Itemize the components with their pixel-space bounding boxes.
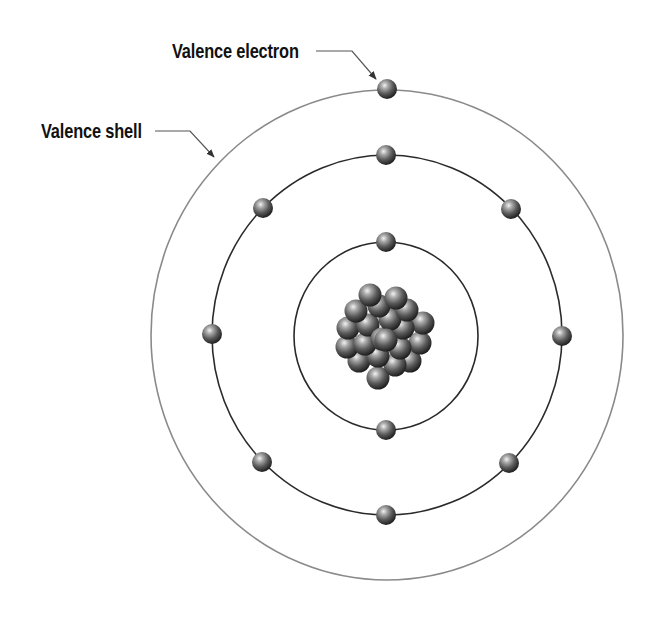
electron-shell2-top-left: [253, 198, 273, 218]
electron-shell2-bottom-left: [252, 452, 272, 472]
electron-shell2-top-right: [501, 199, 521, 219]
valence-shell-label: Valence shell: [41, 120, 142, 142]
nucleus: [336, 284, 435, 390]
valence-shell-leader-line: [155, 131, 214, 157]
valence-electron: [377, 79, 397, 99]
electron-shell2-bottom-right: [499, 453, 519, 473]
valence-electron-leader-line: [316, 51, 376, 79]
electron-shell2-bottom: [376, 505, 396, 525]
electron-shell2-right: [552, 326, 572, 346]
atom-diagram-graphic: [0, 0, 659, 626]
electron-shell1-top: [376, 232, 396, 252]
atom-diagram: Valence electron Valence shell: [0, 0, 659, 626]
electron-shell2-top: [376, 145, 396, 165]
electron-shell1-bottom: [376, 420, 396, 440]
electron-shell2-left: [202, 324, 222, 344]
valence-electron-label: Valence electron: [172, 40, 299, 62]
